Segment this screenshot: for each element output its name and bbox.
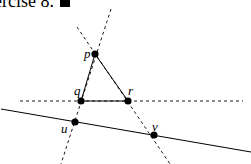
- dashed-line-pq: [61, 9, 111, 164]
- point-r: [124, 97, 131, 104]
- triangle-pqr: [81, 54, 128, 101]
- label-u: u: [61, 121, 68, 136]
- label-r: r: [128, 83, 134, 98]
- label-q: q: [74, 83, 81, 98]
- label-v: v: [152, 119, 158, 134]
- geometry-diagram: p q r u v: [0, 0, 251, 164]
- dashed-line-pr: [77, 27, 170, 164]
- label-p: p: [83, 46, 91, 61]
- solid-line-uv: [1, 109, 251, 152]
- point-u: [71, 118, 78, 125]
- point-q: [77, 97, 84, 104]
- point-p: [91, 50, 98, 57]
